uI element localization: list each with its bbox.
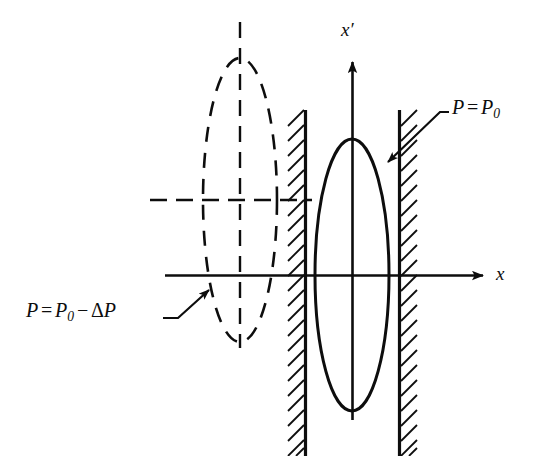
right-hatched-wall (400, 110, 418, 456)
x-axis-label: x (496, 264, 504, 283)
label-p0-subscript-zero: 0 (493, 106, 500, 121)
label-pressure-outside: P=P0−ΔP (26, 300, 116, 323)
x-axis-label-symbol: x (496, 263, 504, 284)
label-pdelta-symbol-p0-base: P (55, 299, 67, 321)
leader-line-p0 (388, 112, 449, 162)
label-pdelta-minus: − (74, 299, 91, 321)
label-p0-symbol-p0-base: P (481, 96, 493, 118)
x-prime-axis-label-prime-mark: ′ (349, 19, 353, 40)
label-pdelta-equals: = (38, 299, 55, 321)
dashed-ellipse-expanded-bubble (150, 22, 312, 348)
leader-p-equals-p0-minus-delta-p (163, 290, 209, 318)
diagram-svg (0, 0, 549, 456)
label-pdelta-symbol-p2: P (104, 299, 116, 321)
label-pdelta-delta-symbol: Δ (91, 299, 104, 321)
leader-p-equals-p0 (388, 112, 449, 162)
label-pressure-inside: P=P0 (452, 97, 500, 120)
figure-canvas: P=P0 P=P0−ΔP x x′ (0, 0, 549, 456)
label-p0-equals: = (464, 96, 481, 118)
x-prime-axis-label: x′ (341, 20, 354, 39)
right-wall-hatching (401, 110, 417, 456)
leader-line-p0-minus-delta-p (163, 290, 209, 318)
label-pdelta-symbol-p: P (26, 299, 38, 321)
left-wall-hatching (288, 110, 304, 456)
label-p0-symbol-p: P (452, 96, 464, 118)
left-hatched-wall (288, 110, 306, 456)
